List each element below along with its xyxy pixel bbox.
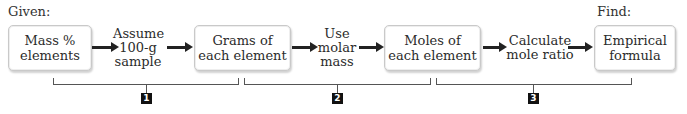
step-line: molar [313, 41, 361, 55]
box-line: formula [603, 48, 667, 63]
assume-sample-step: Assume 100-g sample [113, 27, 163, 69]
box-line: elements [20, 48, 80, 63]
arrow-icon [167, 46, 187, 49]
arrow-icon [92, 46, 113, 49]
box-line: Grams of [198, 33, 286, 48]
step-3-badge: 3 [528, 93, 539, 104]
bracket-step-1 [53, 78, 239, 85]
bracket-stem [337, 85, 338, 93]
bracket-stem [146, 85, 147, 93]
step-line: mass [313, 55, 361, 69]
box-line: each element [388, 48, 476, 63]
find-label: Find: [597, 4, 631, 19]
mole-ratio-step: Calculate mole ratio [505, 34, 575, 62]
given-label: Given: [8, 4, 50, 19]
arrow-icon [292, 46, 312, 49]
moles-box: Moles of each element [384, 25, 481, 71]
bracket-stem [533, 85, 534, 93]
step-line: Calculate [505, 34, 575, 48]
step-line: Use [313, 27, 361, 41]
arrow-icon [483, 46, 501, 49]
molar-mass-step: Use molar mass [313, 27, 361, 69]
box-line: Moles of [388, 33, 476, 48]
step-line: sample [113, 55, 163, 69]
bracket-step-2 [244, 78, 431, 85]
box-line: Mass % [20, 33, 80, 48]
step-line: 100-g [113, 41, 163, 55]
arrow-icon [359, 46, 378, 49]
box-line: Empirical [603, 33, 667, 48]
mass-percent-box: Mass % elements [8, 25, 92, 71]
box-line: each element [198, 48, 286, 63]
grams-box: Grams of each element [194, 25, 291, 71]
step-1-badge: 1 [141, 93, 152, 104]
arrow-icon [568, 46, 587, 49]
step-line: Assume [113, 27, 163, 41]
step-line: mole ratio [505, 48, 575, 62]
empirical-formula-box: Empirical formula [594, 25, 676, 71]
step-2-badge: 2 [332, 93, 343, 104]
bracket-step-3 [436, 78, 632, 85]
